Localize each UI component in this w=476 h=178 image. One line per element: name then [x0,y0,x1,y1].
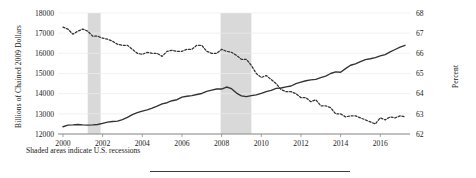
x-tick-label: 2010 [254,139,269,148]
x-tick-label: 2006 [174,139,189,148]
right-tick-label: 67 [416,29,424,38]
x-tick-label: 2014 [333,139,348,148]
right-tick-label: 64 [416,89,424,98]
left-tick-label: 14000 [35,89,54,98]
right-axis-tick-labels: 62636465666768 [416,9,424,139]
chart-figure: 12000130001400015000160001700018000 6263… [0,0,476,178]
right-tick-label: 68 [416,9,424,18]
x-tick-label: 2016 [373,139,388,148]
right-tick-label: 65 [416,69,424,78]
left-tick-label: 18000 [35,9,54,18]
footer-divider [150,171,350,172]
left-axis-title: Billions of Chained 2009 Dollars [14,12,23,142]
left-tick-label: 17000 [35,29,54,38]
right-axis-title: Percent [451,32,460,122]
x-tick-label: 2012 [293,139,308,148]
left-tick-label: 16000 [35,49,54,58]
right-tick-label: 63 [416,110,424,119]
right-tick-label: 66 [416,49,424,58]
left-tick-label: 12000 [35,130,54,139]
left-axis-tick-labels: 12000130001400015000160001700018000 [35,9,54,139]
left-tick-label: 13000 [35,110,54,119]
chart-caption: Shaded areas indicate U.S. recessions [26,146,140,155]
x-tick-label: 2008 [214,139,229,148]
left-tick-label: 15000 [35,69,54,78]
right-tick-label: 62 [416,130,424,139]
